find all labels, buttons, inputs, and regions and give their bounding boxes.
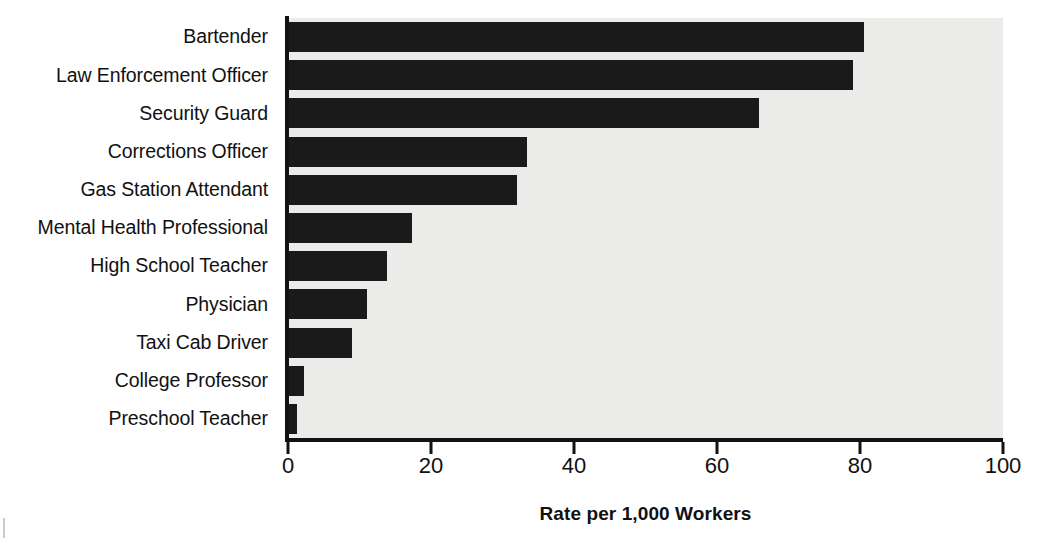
bar [288,213,412,243]
category-label: Preschool Teacher [0,400,278,438]
bar-row [288,56,1003,94]
x-axis-ticks [288,442,1003,454]
bar-row [288,209,1003,247]
category-axis-labels: Bartender Law Enforcement Officer Securi… [0,18,278,438]
category-label: Taxi Cab Driver [0,324,278,362]
bar-row [288,133,1003,171]
bar-row [288,285,1003,323]
category-label: Security Guard [0,94,278,132]
category-label: Mental Health Professional [0,209,278,247]
category-label: Corrections Officer [0,133,278,171]
bar-row [288,94,1003,132]
x-axis-tick-label: 100 [985,455,1022,477]
bar-series [288,18,1003,438]
x-axis-tick-label: 40 [562,455,586,477]
x-axis-tick-label: 60 [705,455,729,477]
bar [288,98,759,128]
bar-row [288,247,1003,285]
bar-row [288,324,1003,362]
x-axis-tick-labels: 020406080100 [288,455,1003,485]
bar [288,328,352,358]
bar [288,366,304,396]
category-label: Bartender [0,18,278,56]
category-label: Physician [0,285,278,323]
category-label: Law Enforcement Officer [0,56,278,94]
bar [288,60,853,90]
bar-row [288,362,1003,400]
x-axis-tick-label: 80 [848,455,872,477]
bar [288,251,387,281]
bar [288,289,367,319]
category-label: College Professor [0,362,278,400]
bar [288,175,517,205]
category-label: Gas Station Attendant [0,171,278,209]
bar [288,137,527,167]
x-axis-title: Rate per 1,000 Workers [288,503,1003,525]
y-axis-line [285,16,289,442]
bar-chart: Bartender Law Enforcement Officer Securi… [0,0,1041,545]
bar [288,22,864,52]
category-label: High School Teacher [0,247,278,285]
scan-artifact [3,518,5,538]
bar-row [288,171,1003,209]
bar-row [288,400,1003,438]
x-axis-tick-label: 20 [419,455,443,477]
x-axis-tick-label: 0 [282,455,294,477]
bar [288,404,297,434]
bar-row [288,18,1003,56]
